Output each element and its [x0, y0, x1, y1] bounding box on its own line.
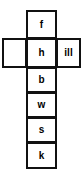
grid-cell-ill[interactable]: ill [56, 38, 81, 68]
cell-label-ill: ill [64, 48, 72, 58]
cell-label-f: f [40, 20, 43, 30]
grid-cell-f[interactable]: f [26, 10, 57, 39]
grid-cell-k[interactable]: k [26, 142, 57, 169]
grid-cell-b[interactable]: b [26, 67, 57, 93]
cell-label-s: s [39, 125, 45, 135]
grid-cell-w[interactable]: w [26, 92, 57, 118]
cell-label-h: h [38, 48, 44, 58]
cell-label-k: k [39, 151, 45, 161]
grid-cell-left-blank[interactable] [2, 38, 27, 68]
cell-label-b: b [38, 75, 44, 85]
cell-label-w: w [38, 100, 46, 110]
grid-cell-h[interactable]: h [26, 38, 57, 68]
grid-cell-s[interactable]: s [26, 117, 57, 143]
cross-word-grid: f h ill b w s k [0, 0, 84, 180]
